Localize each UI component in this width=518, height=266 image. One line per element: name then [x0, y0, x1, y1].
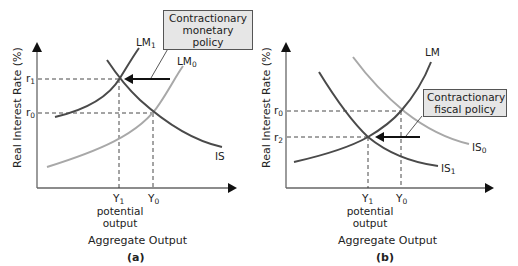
panel-a-lm1-label: LM1: [136, 36, 156, 48]
panel-a-graph: [32, 40, 237, 193]
panel-a-callout: Contractionary monetary policy: [163, 10, 253, 50]
panel-a-lm0-curve: [47, 66, 183, 167]
panel-a-lm1-curve: [55, 48, 139, 117]
panel-b-is0-label: IS0: [472, 141, 487, 153]
panel-a-y1-tick: Y1: [113, 192, 124, 204]
panel-a-potential-output-label: potential output: [94, 205, 146, 229]
panel-b-graph: [281, 42, 494, 193]
panel-a-tag: (a): [127, 251, 144, 264]
panel-a-callout-line2: monetary policy: [167, 24, 249, 48]
panel-b-callout-line2: fiscal policy: [427, 103, 503, 115]
panel-a-r0-tick: r0: [26, 106, 35, 118]
panel-a-y0-tick: Y0: [148, 192, 159, 204]
panel-b-y-axis-label: Real Interest Rate (%): [260, 47, 273, 168]
panel-b-shift-arrowhead-icon: [375, 132, 384, 142]
panel-b-callout: Contractionary fiscal policy: [423, 89, 507, 117]
panel-a-x-axis-label: Aggregate Output: [88, 234, 187, 247]
panel-a-is-label: IS: [215, 150, 225, 162]
panel-a-shift-arrowhead-icon: [124, 74, 133, 84]
panel-a-y-axis-arrow-icon: [32, 42, 42, 52]
panel-b-y1-tick: Y1: [362, 192, 373, 204]
panel-b-x-axis-arrow-icon: [485, 183, 494, 193]
panel-a-callout-line1: Contractionary: [167, 12, 249, 24]
panel-a-r1-tick: r1: [26, 72, 35, 84]
panel-b-y-axis-arrow-icon: [281, 42, 291, 52]
panel-b-r0-tick: r0: [274, 104, 283, 116]
panel-a-lm0-label: LM0: [177, 55, 197, 67]
panel-b-x-axis-label: Aggregate Output: [338, 234, 437, 247]
islm-diagrams: [0, 0, 518, 266]
panel-b-is1-label: IS1: [441, 162, 456, 174]
panel-b-y0-tick: Y0: [396, 192, 407, 204]
panel-a-x-axis-arrow-icon: [228, 183, 237, 193]
panel-a-y-axis-label: Real Interest Rate (%): [11, 47, 24, 168]
panel-b-lm-label: LM: [425, 46, 440, 58]
panel-a-is-curve: [107, 60, 222, 147]
panel-b-potential-output-label: potential output: [344, 205, 396, 229]
panel-b-r2-tick: r2: [274, 131, 283, 143]
panel-b-tag: (b): [376, 251, 394, 264]
panel-b-lm-curve: [294, 62, 431, 162]
panel-b-callout-line1: Contractionary: [427, 91, 503, 103]
